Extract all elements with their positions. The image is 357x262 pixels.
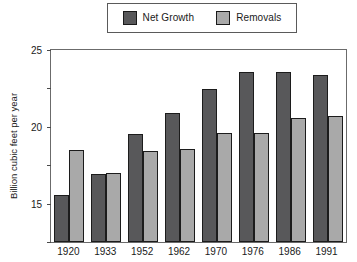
bar-net-growth-1920	[54, 195, 69, 242]
bar-group-1976	[235, 50, 272, 242]
bar-group-1962	[162, 50, 199, 242]
x-axis-tick-label-1986: 1986	[279, 246, 301, 257]
x-axis-tick-label-1952: 1952	[131, 246, 153, 257]
bar-group-1986	[272, 50, 309, 242]
x-axis-tick-label-1970: 1970	[205, 246, 227, 257]
x-axis-tick-label-1991: 1991	[315, 246, 337, 257]
bar-group-1920	[51, 50, 88, 242]
legend-entry-removals: Removals	[216, 11, 281, 25]
y-axis-tick-label: 20	[31, 123, 42, 133]
bar-removals-1933	[106, 173, 121, 242]
x-axis-tick-label-1933: 1933	[94, 246, 116, 257]
y-axis-title: Billion cubic feet per year	[6, 48, 22, 244]
y-axis-tick-label: 25	[31, 46, 42, 56]
y-axis-tick: 0	[47, 242, 51, 243]
bar-net-growth-1962	[165, 113, 180, 242]
bar-removals-1952	[143, 151, 158, 242]
bar-removals-1991	[328, 116, 343, 242]
plot-area: 0510152025	[50, 49, 347, 243]
bar-group-1970	[199, 50, 236, 242]
bar-group-1991	[309, 50, 346, 242]
x-axis-tick-label-1920: 1920	[57, 246, 79, 257]
legend-label-net-growth: Net Growth	[143, 13, 195, 23]
bar-net-growth-1933	[91, 174, 106, 242]
legend-swatch-removals-icon	[216, 11, 230, 25]
bar-net-growth-1991	[313, 75, 328, 242]
plot-inner: 0510152025	[51, 50, 346, 242]
x-axis-tick-label-1976: 1976	[242, 246, 264, 257]
bar-removals-1970	[217, 133, 232, 242]
legend-entry-net-growth: Net Growth	[123, 11, 195, 25]
x-axis-tick-label-1962: 1962	[168, 246, 190, 257]
bar-net-growth-1976	[239, 72, 254, 242]
bar-removals-1962	[180, 149, 195, 242]
bar-group-1952	[125, 50, 162, 242]
bar-removals-1986	[291, 118, 306, 242]
bar-net-growth-1986	[276, 72, 291, 242]
bar-net-growth-1952	[128, 134, 143, 242]
bar-removals-1920	[69, 150, 84, 242]
y-axis-title-text: Billion cubic feet per year	[9, 93, 19, 199]
chart-legend: Net Growth Removals	[107, 3, 297, 33]
y-axis-tick-label: 15	[31, 200, 42, 210]
bar-group-1933	[88, 50, 125, 242]
bar-removals-1976	[254, 133, 269, 242]
bar-net-growth-1970	[202, 89, 217, 242]
legend-swatch-net-growth-icon	[123, 11, 137, 25]
legend-label-removals: Removals	[236, 13, 281, 23]
